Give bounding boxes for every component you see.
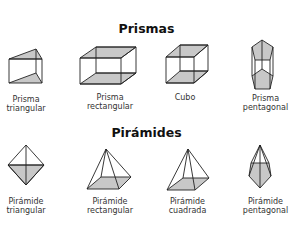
triangular-prism-icon <box>0 40 50 90</box>
pentagonal-pyramid-icon <box>245 143 293 198</box>
label-piramide-rectangular: Pirámide rectangular <box>80 197 140 215</box>
label-piramide-cuadrada: Pirámide cuadrada <box>160 197 215 215</box>
label-piramide-pentagonal: Pirámide pentagonal <box>238 197 293 215</box>
pyramids-title: Pirámides <box>0 125 293 140</box>
square-pyramid-icon <box>165 147 215 197</box>
label-piramide-triangular: Pirámide triangular <box>0 197 52 215</box>
prisms-title: Prismas <box>0 21 293 36</box>
label-cubo: Cubo <box>160 93 210 102</box>
label-prisma-pentagonal: Prisma pentagonal <box>238 94 293 112</box>
label-prisma-rectangular: Prisma rectangular <box>80 93 140 111</box>
rectangular-pyramid-icon <box>85 147 145 197</box>
triangular-pyramid-icon <box>6 143 56 193</box>
label-prisma-triangular: Prisma triangular <box>0 95 52 113</box>
pentagonal-prism-icon <box>248 35 293 95</box>
